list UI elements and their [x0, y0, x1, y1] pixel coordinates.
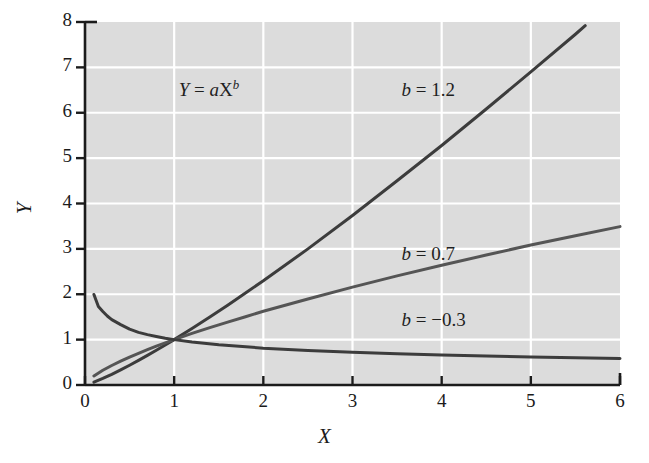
series-label-value: = 0.7: [411, 243, 455, 264]
x-tick-label: 3: [338, 390, 368, 412]
power-function-chart: Y X 0123456 012345678 Y = aXb b = 1.2b =…: [0, 0, 649, 463]
y-tick-label: 1: [46, 327, 72, 349]
x-tick-label: 2: [248, 390, 278, 412]
y-tick-label: 5: [46, 145, 72, 167]
equation-lhs: Y: [179, 79, 190, 100]
y-tick-label: 3: [46, 236, 72, 258]
series-label-value: = −0.3: [411, 309, 466, 330]
x-tick-label: 5: [516, 390, 546, 412]
equation-variable: X: [219, 79, 233, 100]
x-tick-label: 6: [605, 390, 635, 412]
series-label-value: = 1.2: [411, 79, 455, 100]
equation-annotation: Y = aXb: [179, 79, 239, 101]
series-label-symbol: b: [402, 243, 412, 264]
y-tick-label: 6: [46, 100, 72, 122]
series-label-symbol: b: [402, 309, 412, 330]
x-tick-label: 1: [159, 390, 189, 412]
x-axis-title: X: [0, 424, 649, 449]
x-tick-label: 4: [427, 390, 457, 412]
series-label-2: b = −0.3: [402, 309, 466, 331]
y-tick-label: 7: [46, 54, 72, 76]
y-tick-label: 2: [46, 281, 72, 303]
equation-coefficient: a: [209, 79, 219, 100]
y-tick-label: 8: [46, 9, 72, 31]
y-axis-title: Y: [12, 169, 37, 249]
series-label-1: b = 0.7: [402, 243, 455, 265]
equation-equals: =: [189, 79, 209, 100]
y-tick-label: 4: [46, 191, 72, 213]
x-tick-label: 0: [70, 390, 100, 412]
y-tick-label: 0: [46, 372, 72, 394]
series-label-0: b = 1.2: [402, 79, 455, 101]
series-label-symbol: b: [402, 79, 412, 100]
equation-exponent: b: [233, 77, 239, 92]
